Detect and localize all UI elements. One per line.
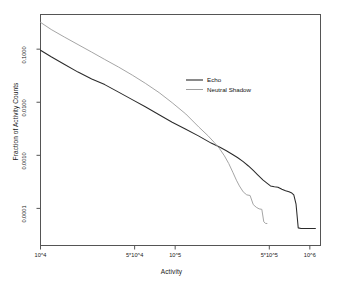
x-tick-label: 10^5 [169,252,181,258]
x-tick-label: 10^4 [35,252,47,258]
plot-canvas [0,0,343,289]
y-tick-label: 0.0010 [0,149,32,167]
legend-label-neutral-shadow: Neutral Shadow [207,86,251,93]
x-axis-title: Activity [0,268,343,275]
x-tick-label: 10^6 [304,252,316,258]
x-tick-label: 5*10^5 [261,252,278,258]
legend-label-echo: Echo [207,76,221,83]
x-tick-label: 5*10^4 [126,252,143,258]
y-tick-label: 0.0001 [0,202,32,220]
y-tick-label: 0.0100 [0,96,32,114]
y-tick-label: 0.1000 [0,43,32,61]
activity-distribution-chart: Fraction of Activity Counts Activity 10^… [0,0,343,289]
